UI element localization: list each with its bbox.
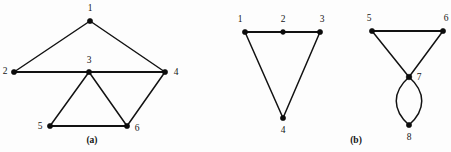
panel-a-group: 1 2 3 4 5 6 (a) <box>3 3 179 146</box>
vertex-label-a-4: 4 <box>174 67 179 77</box>
vertex-label-a-5: 5 <box>38 121 43 131</box>
vertex-label-b-5: 5 <box>367 13 372 23</box>
vertex-label-b-2: 2 <box>281 14 286 24</box>
panel-b-left-vertices <box>242 29 322 120</box>
vertex-label-b-6: 6 <box>444 13 449 23</box>
edge-b-7-8-right <box>409 77 422 125</box>
panel-b-right-group: 5 6 7 8 (b) <box>350 13 448 146</box>
edge-a-3-6 <box>89 72 127 126</box>
panel-a-vertices <box>11 18 167 128</box>
vertex-label-b-8: 8 <box>407 132 412 142</box>
vertex-label-b-1: 1 <box>238 14 243 24</box>
vertex-a-5 <box>47 123 52 128</box>
edge-a-3-5 <box>50 72 89 126</box>
edge-b-5-7 <box>372 31 409 77</box>
vertex-b-2 <box>281 30 286 35</box>
vertex-label-a-1: 1 <box>88 3 93 13</box>
edge-b-7-8-left <box>396 77 409 125</box>
vertex-a-6 <box>124 123 129 128</box>
vertex-label-b-4: 4 <box>281 125 286 135</box>
vertex-b-8 <box>406 122 411 127</box>
panel-b-left-edges <box>245 32 320 118</box>
panel-b-left-group: 1 2 3 4 <box>238 14 325 135</box>
edge-a-1-4 <box>90 21 165 72</box>
edge-a-1-2 <box>14 21 90 72</box>
vertex-label-a-2: 2 <box>3 66 8 76</box>
edge-a-4-6 <box>127 72 165 126</box>
panel-b-caption: (b) <box>350 135 362 146</box>
edge-b-6-7 <box>409 31 443 77</box>
panel-a-caption: (a) <box>86 135 97 146</box>
vertex-b-6 <box>440 28 445 33</box>
vertex-label-b-3: 3 <box>320 14 325 24</box>
vertex-b-3 <box>317 29 322 34</box>
vertex-b-4 <box>280 115 285 120</box>
vertex-b-5 <box>369 28 374 33</box>
edge-b-1-4 <box>245 32 283 118</box>
vertex-label-a-3: 3 <box>87 55 92 65</box>
edge-b-3-4 <box>283 32 320 118</box>
vertex-b-7 <box>406 74 412 80</box>
figure-container: 1 2 3 4 5 6 (a) <box>0 0 451 152</box>
vertex-label-a-6: 6 <box>135 123 140 133</box>
vertex-label-b-7: 7 <box>417 72 422 82</box>
vertex-a-2 <box>11 69 16 74</box>
vertex-a-3 <box>86 69 91 74</box>
vertex-b-1 <box>242 29 247 34</box>
vertex-a-1 <box>87 18 92 23</box>
vertex-a-4 <box>162 69 167 74</box>
graph-diagram-canvas: 1 2 3 4 5 6 (a) <box>0 0 451 152</box>
